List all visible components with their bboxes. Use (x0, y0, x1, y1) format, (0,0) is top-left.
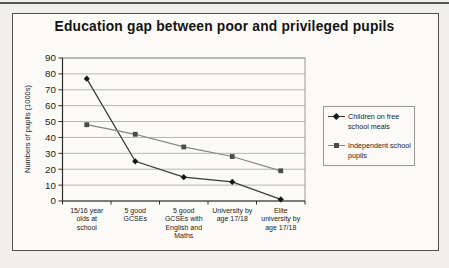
square-marker (181, 145, 186, 150)
series-1 (84, 122, 283, 173)
y-tick-label: 80 (45, 68, 56, 79)
legend-label: Children on free school meals (348, 112, 412, 131)
x-category-label: 5 goodGCSEs (124, 207, 148, 223)
y-tick-label: 40 (45, 132, 56, 143)
y-tick-label: 60 (45, 100, 56, 111)
y-tick-label: 30 (45, 148, 56, 159)
square-marker (278, 168, 283, 173)
y-tick-label: 90 (45, 52, 56, 63)
x-category-label: University byage 17/18 (212, 207, 253, 224)
legend-item-free-school-meals: Children on free school meals (328, 112, 412, 131)
legend-label: Independent school pupils (348, 141, 412, 160)
diamond-marker (229, 179, 235, 185)
diamond-marker (84, 76, 90, 82)
series-0 (84, 76, 284, 203)
y-tick-label: 10 (45, 180, 56, 191)
x-category-label: Eliteuniversity byage 17/18 (261, 207, 300, 232)
y-tick-label: 50 (45, 116, 56, 127)
square-marker (84, 122, 89, 127)
y-tick-label: 20 (45, 164, 56, 175)
diamond-marker-icon (333, 113, 339, 119)
diamond-marker (132, 158, 138, 164)
square-marker (133, 132, 138, 137)
y-tick-label: 0 (51, 195, 57, 206)
series-line-sample (328, 141, 345, 150)
y-tick-label: 70 (45, 84, 56, 95)
x-category-label: 15/16 yearolds atschool (70, 207, 104, 231)
x-axis: 15/16 yearolds atschool5 goodGCSEs5 good… (63, 201, 306, 239)
diamond-marker (181, 174, 187, 180)
square-marker (230, 154, 235, 159)
x-category-label: 5 goodGCSEs withEnglish andMaths (165, 207, 203, 240)
legend-item-independent-school: Independent school pupils (328, 141, 412, 160)
y-axis: 0102030405060708090 (45, 52, 62, 206)
series-line (87, 79, 281, 200)
series-line-sample (328, 112, 345, 121)
gridlines (63, 58, 306, 185)
square-marker-icon (334, 143, 339, 148)
chart-legend: Children on free school meals Independen… (323, 106, 415, 166)
chart-figure: Education gap between poor and privilege… (0, 0, 449, 268)
